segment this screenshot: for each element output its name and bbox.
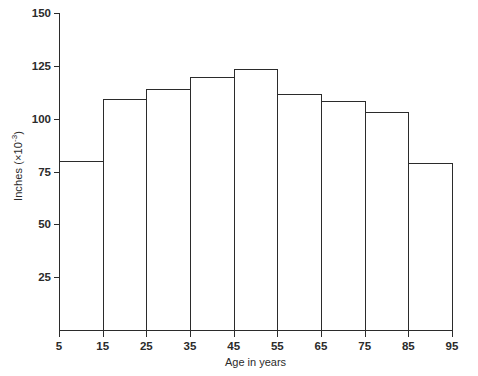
- bar-5-15: [59, 161, 104, 331]
- x-tick-15: [103, 331, 104, 337]
- x-tick-85: [408, 331, 409, 337]
- y-axis-title-exponent: -3: [10, 135, 19, 142]
- y-axis-title-tail: ): [12, 131, 24, 135]
- y-tick-label-100: 100: [32, 113, 51, 125]
- x-tick-35: [190, 331, 191, 337]
- x-tick-label-85: 85: [402, 340, 415, 352]
- bar-65-75: [321, 101, 366, 331]
- y-tick-125: 125: [54, 66, 59, 67]
- x-tick-95: [452, 331, 453, 337]
- y-tick-150: 150: [54, 13, 59, 14]
- x-tick-label-65: 65: [315, 340, 328, 352]
- x-tick-55: [277, 331, 278, 337]
- x-tick-label-45: 45: [227, 340, 240, 352]
- bar-15-25: [103, 99, 148, 331]
- bar-25-35: [146, 89, 191, 331]
- x-tick-5: [59, 331, 60, 337]
- x-tick-75: [365, 331, 366, 337]
- bar-35-45: [190, 77, 235, 331]
- y-axis-title-text: Inches (×10: [12, 142, 24, 201]
- y-axis-title: Inches (×10-3): [12, 0, 28, 336]
- x-tick-25: [146, 331, 147, 337]
- bar-55-65: [277, 94, 322, 331]
- y-tick-label-50: 50: [38, 218, 51, 230]
- y-tick-label-125: 125: [32, 60, 51, 72]
- y-tick-label-75: 75: [38, 166, 51, 178]
- x-tick-label-55: 55: [271, 340, 284, 352]
- x-tick-label-5: 5: [56, 340, 62, 352]
- x-tick-label-75: 75: [358, 340, 371, 352]
- x-tick-label-95: 95: [446, 340, 459, 352]
- x-axis-title: Age in years: [59, 356, 452, 368]
- x-tick-45: [234, 331, 235, 337]
- x-tick-label-25: 25: [140, 340, 153, 352]
- x-tick-65: [321, 331, 322, 337]
- x-tick-label-35: 35: [184, 340, 197, 352]
- bar-75-85: [365, 112, 410, 331]
- y-tick-label-25: 25: [38, 271, 51, 283]
- bar-45-55: [234, 69, 279, 331]
- histogram-chart: Inches (×10-3) 255075100125150 515253545…: [0, 0, 478, 376]
- plot-area: 255075100125150 5152535455565758595: [59, 13, 452, 330]
- y-tick-label-150: 150: [32, 7, 51, 19]
- y-tick-100: 100: [54, 119, 59, 120]
- bar-85-95: [408, 163, 453, 331]
- x-tick-label-15: 15: [96, 340, 109, 352]
